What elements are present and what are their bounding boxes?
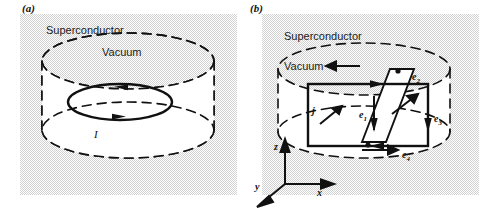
axis-z-head	[281, 139, 290, 152]
axis-y-head	[257, 196, 273, 207]
edge-label-e2: e2	[412, 71, 420, 85]
arrow-upper-head	[326, 62, 336, 71]
coordinate-axes: z x y	[255, 128, 351, 208]
superconductor-label-b: Superconductor	[284, 30, 362, 42]
out-of-plane-dot-lower	[365, 142, 370, 147]
cylinder-top-ellipse-outline	[42, 33, 214, 89]
panel-b-label: (b)	[250, 2, 263, 14]
axis-label-y: y	[254, 181, 260, 192]
figure-root: Superconductor Vacuum I (a)	[0, 0, 495, 210]
panel-a-label: (a)	[22, 2, 35, 14]
out-of-plane-dot-upper	[395, 68, 400, 73]
vacuum-label-b: Vacuum	[284, 60, 324, 72]
axis-label-z: z	[273, 141, 278, 152]
panel-a-drawing: Superconductor Vacuum I	[20, 14, 237, 195]
superconductor-label-a: Superconductor	[46, 24, 124, 36]
arrow-e2	[370, 80, 384, 88]
axis-label-x: x	[316, 187, 322, 198]
vacuum-label-a: Vacuum	[102, 46, 142, 58]
panel-a: Superconductor Vacuum I	[20, 14, 237, 195]
axis-x-head	[321, 180, 334, 189]
